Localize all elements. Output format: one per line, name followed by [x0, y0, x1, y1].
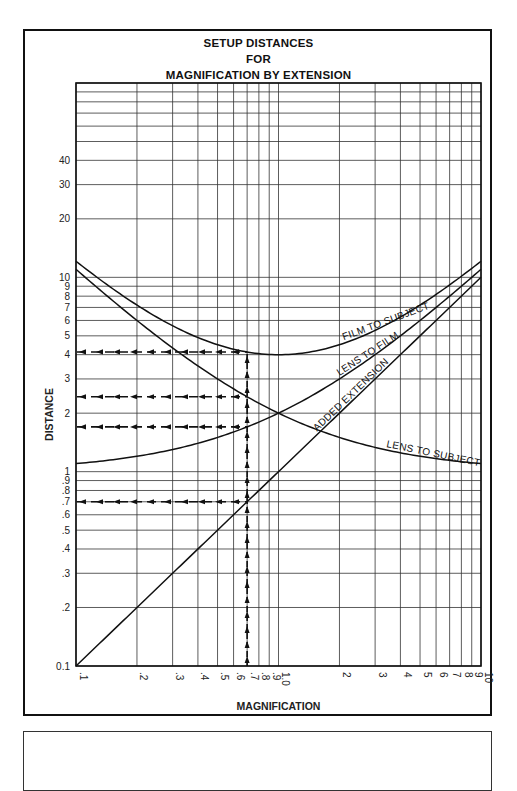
left-arrow-head [113, 394, 120, 399]
curve-labels: FILM TO SUBJECTLENS TO FILMADDED EXTENSI… [311, 300, 481, 468]
left-arrow-head [215, 349, 222, 354]
x-tick-label: .5 [219, 672, 230, 681]
x-tick-label: 5 [422, 672, 433, 678]
left-arrow-head [198, 499, 205, 504]
y-tick-label: 40 [59, 155, 71, 166]
left-arrow-head [164, 424, 171, 429]
left-arrow-head [232, 394, 239, 399]
left-arrow-head [79, 424, 86, 429]
left-arrow-head [215, 394, 222, 399]
y-tick-label: .8 [62, 485, 71, 496]
up-arrow-head [245, 656, 250, 663]
left-arrow-head [96, 349, 103, 354]
up-arrow-head [245, 551, 250, 558]
x-tick-label: 6 [438, 672, 449, 678]
up-arrow-head [245, 506, 250, 513]
y-tick-label: .2 [62, 602, 71, 613]
up-arrow-head [245, 431, 250, 438]
y-tick-label: 8 [64, 291, 70, 302]
up-arrow-head [245, 611, 250, 618]
left-arrow-head [79, 349, 86, 354]
up-arrow-head [245, 476, 250, 483]
left-arrow-head [181, 499, 188, 504]
up-arrow-head [245, 626, 250, 633]
up-arrow-head [245, 596, 250, 603]
y-tick-label: 6 [64, 315, 70, 326]
y-tick-label: .6 [62, 509, 71, 520]
left-arrow-head [113, 349, 120, 354]
x-tick-label: .7 [249, 672, 260, 681]
up-arrow-head [245, 446, 250, 453]
y-tick-label: 7 [64, 302, 70, 313]
left-arrow-head [198, 349, 205, 354]
up-arrow-head [245, 521, 250, 528]
x-tick-label: 1.0 [280, 672, 291, 686]
up-arrow-head [245, 371, 250, 378]
tick-labels: .1.2.3.4.5.6.7.8.91.023456789100.1.2.3.4… [56, 155, 493, 687]
y-tick-label: 3 [64, 373, 70, 384]
y-tick-label: 30 [59, 179, 71, 190]
y-tick-label: 20 [59, 213, 71, 224]
left-arrow-head [113, 499, 120, 504]
left-arrow-head [113, 424, 120, 429]
y-tick-label: .3 [62, 568, 71, 579]
y-tick-label: 1 [64, 466, 70, 477]
x-tick-label: .8 [260, 672, 271, 681]
left-arrow-head [232, 499, 239, 504]
y-tick-label: 2 [64, 408, 70, 419]
left-arrow-head [96, 499, 103, 504]
left-arrow-head [147, 499, 154, 504]
up-arrow-head [245, 641, 250, 648]
left-arrow-head [181, 394, 188, 399]
left-arrow-head [79, 394, 86, 399]
left-arrow-head [130, 349, 137, 354]
y-tick-label: 4 [64, 349, 70, 360]
left-arrow-head [215, 499, 222, 504]
left-arrow-head [198, 394, 205, 399]
x-tick-label: 10 [483, 672, 494, 684]
up-arrow-head [245, 356, 250, 363]
y-tick-label: 5 [64, 330, 70, 341]
left-arrow-head [181, 349, 188, 354]
x-tick-label: .3 [174, 672, 185, 681]
x-tick-label: .1 [78, 672, 89, 681]
left-arrow-head [130, 424, 137, 429]
left-arrow-head [215, 424, 222, 429]
up-arrow-head [245, 461, 250, 468]
left-arrow-head [164, 394, 171, 399]
left-arrow-head [147, 424, 154, 429]
up-arrow-head [245, 536, 250, 543]
left-arrow-head [130, 394, 137, 399]
left-arrow-head [147, 394, 154, 399]
left-arrow-head [198, 424, 205, 429]
left-arrow-head [79, 499, 86, 504]
x-tick-label: .6 [235, 672, 246, 681]
y-tick-label: .5 [62, 525, 71, 536]
left-arrow-head [96, 424, 103, 429]
x-tick-label: 8 [463, 672, 474, 678]
left-arrow-head [164, 349, 171, 354]
y-axis-label: DISTANCE [43, 388, 55, 441]
up-arrow-head [245, 386, 250, 393]
left-arrow-head [164, 499, 171, 504]
y-tick-label: .4 [62, 543, 71, 554]
y-tick-label: 0.1 [56, 661, 70, 672]
left-arrow-head [96, 394, 103, 399]
x-axis-label: MAGNIFICATION [237, 700, 321, 712]
left-arrow-head [147, 349, 154, 354]
annotation-arrows [77, 349, 250, 666]
up-arrow-head [245, 581, 250, 588]
x-tick-label: 7 [451, 672, 462, 678]
y-tick-label: .7 [62, 496, 71, 507]
grid [76, 83, 481, 666]
x-tick-label: 2 [341, 672, 352, 678]
x-tick-label: .2 [138, 672, 149, 681]
left-arrow-head [130, 499, 137, 504]
y-tick-label: 10 [59, 272, 71, 283]
up-arrow-head [245, 491, 250, 498]
left-arrow-head [232, 424, 239, 429]
up-arrow-head [245, 401, 250, 408]
x-tick-label: 3 [377, 672, 388, 678]
x-tick-label: .4 [199, 672, 210, 681]
